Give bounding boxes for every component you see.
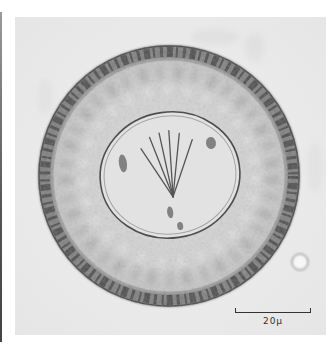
bubble xyxy=(292,254,308,270)
scale-bar-label: 20μ xyxy=(258,316,288,326)
left-edge-line xyxy=(0,12,2,342)
micrograph: 20μ xyxy=(15,17,326,335)
egg-illustration xyxy=(15,17,326,335)
